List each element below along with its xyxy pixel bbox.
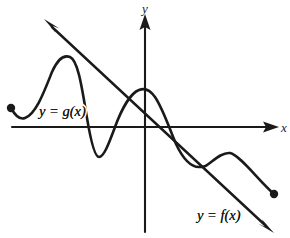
g-left-endpoint-dot bbox=[7, 104, 15, 112]
x-axis-label: x bbox=[280, 120, 287, 135]
g-right-endpoint-dot bbox=[270, 190, 278, 198]
y-axis-label: y bbox=[140, 1, 148, 16]
g-label: y = g(x) bbox=[37, 103, 86, 120]
x-axis: x bbox=[12, 120, 287, 135]
figure-canvas: x y y = g(x) y = g(x) y = f(x) y = f(x) bbox=[0, 0, 290, 238]
g-curve-path bbox=[11, 56, 274, 194]
graph-figure: x y y = g(x) y = g(x) y = f(x) y = f(x) bbox=[0, 0, 290, 238]
f-label: y = f(x) bbox=[195, 207, 241, 224]
